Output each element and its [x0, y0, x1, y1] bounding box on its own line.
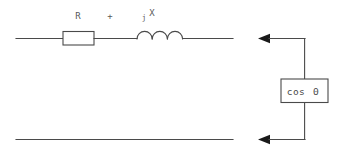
power-factor-label: cos [287, 86, 305, 97]
circuit-canvas: R + j X cos Θ [0, 0, 343, 158]
reactance-j-label: j [142, 13, 147, 22]
circuit-diagram: R + j X cos Θ [0, 0, 343, 158]
resistor-symbol [63, 32, 94, 46]
inductor-coil-1 [137, 31, 152, 39]
reactance-x-label: X [149, 8, 155, 18]
bottom-current-arrow-head [258, 135, 270, 144]
theta-symbol-label: Θ [313, 86, 319, 97]
resistor-label: R [75, 11, 81, 21]
plus-sign-label: + [107, 11, 113, 21]
inductor-coil-3 [167, 31, 182, 39]
inductor-coil-2 [152, 31, 167, 39]
top-current-arrow-head [258, 34, 270, 43]
